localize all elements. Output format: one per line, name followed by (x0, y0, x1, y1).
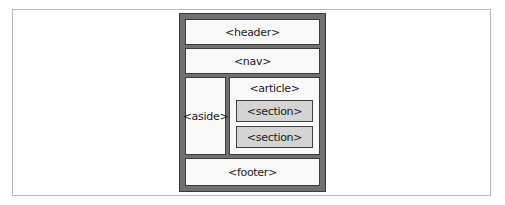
footer-label: <footer> (228, 166, 277, 179)
section-box-1: <section> (236, 100, 313, 122)
aside-box: <aside> (185, 77, 226, 155)
article-label: <article> (230, 82, 319, 95)
section-label-1: <section> (247, 105, 302, 118)
aside-label: <aside> (183, 110, 229, 123)
nav-label: <nav> (234, 55, 271, 68)
footer-box: <footer> (185, 158, 320, 186)
nav-box: <nav> (185, 48, 320, 74)
section-label-2: <section> (247, 131, 302, 144)
header-box: <header> (185, 19, 320, 45)
header-label: <header> (225, 26, 280, 39)
section-box-2: <section> (236, 126, 313, 148)
